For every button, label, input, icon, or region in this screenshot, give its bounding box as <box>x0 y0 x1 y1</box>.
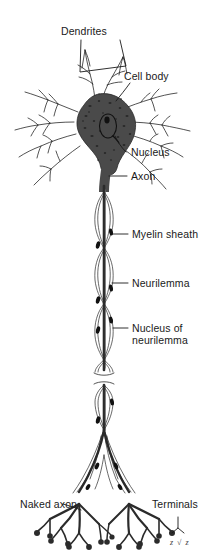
label-dendrites: Dendrites <box>61 25 107 38</box>
label-terminals: Terminals <box>152 498 198 511</box>
axon-break <box>94 373 114 384</box>
bifurcation-myelin <box>73 430 135 493</box>
dendrite-branches-left <box>15 90 80 185</box>
label-nucleus: Nucleus <box>131 146 170 159</box>
label-cell-body: Cell body <box>124 70 169 83</box>
leader-cell-body <box>116 83 130 101</box>
soma-nucleolus <box>104 117 109 124</box>
label-myelin-sheath: Myelin sheath <box>132 228 198 241</box>
label-axon: Axon <box>131 170 155 183</box>
axon-bifurcation <box>79 430 129 492</box>
label-naked-axon: Naked axon <box>20 498 77 511</box>
label-nucleus-of-neurilemma-line2: neurilemma <box>132 334 188 347</box>
bifurcation-nuclei <box>85 462 123 491</box>
terminal-boutons-right <box>104 530 175 550</box>
neuron-diagram: Dendrites Cell body Nucleus Axon Myelin … <box>0 0 208 555</box>
label-nucleus-of-neurilemma-line1: Nucleus of <box>132 322 183 335</box>
label-neurilemma: Neurilemma <box>132 277 190 290</box>
artist-signature: z √ z <box>170 538 190 547</box>
